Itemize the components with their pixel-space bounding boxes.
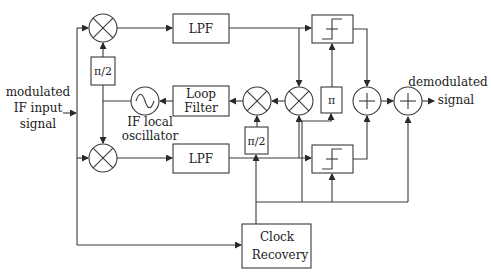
slicer-bottom-icon	[312, 145, 353, 173]
oscillator-label-line2: oscillator	[122, 129, 179, 143]
multiplier-mid-right-icon	[285, 87, 313, 115]
clock-recovery-label-line1: Clock	[260, 230, 295, 244]
adder-left-icon	[353, 87, 381, 115]
demodulator-diagram: modulated IF input signal π/2 IF local o…	[0, 0, 491, 279]
lpf-bottom-label: LPF	[189, 152, 213, 166]
output-label-line2: signal	[438, 93, 475, 107]
phase-shift-top-label: π/2	[94, 65, 112, 78]
wire-osc-bus	[103, 85, 131, 101]
multiplier-top-icon	[89, 14, 117, 42]
oscillator-label-line1: IF local	[127, 115, 173, 129]
output-label-line1: demodulated	[408, 75, 488, 89]
multiplier-mid-left-icon	[243, 87, 271, 115]
clock-recovery-label-line2: Recovery	[252, 248, 309, 262]
loop-filter-label-line2: Filter	[184, 101, 218, 115]
wire-slicer-bottom-to-adder	[353, 116, 367, 159]
oscillator-icon	[131, 87, 159, 115]
input-label: modulated IF input signal	[6, 85, 71, 131]
loop-filter-label-line1: Loop	[186, 87, 216, 101]
multiplier-bottom-icon	[89, 144, 117, 172]
input-label-line1: modulated	[6, 85, 71, 99]
adder-right-icon	[394, 87, 422, 115]
input-label-line3: signal	[20, 117, 57, 131]
input-label-line2: IF input	[14, 101, 63, 115]
wire-slicer-top-to-adder	[353, 29, 367, 86]
lpf-top-label: LPF	[189, 22, 213, 36]
phase-shift-mid-label: π/2	[248, 135, 266, 148]
phase-pi-label: π	[328, 94, 335, 107]
slicer-top-icon	[312, 15, 353, 43]
